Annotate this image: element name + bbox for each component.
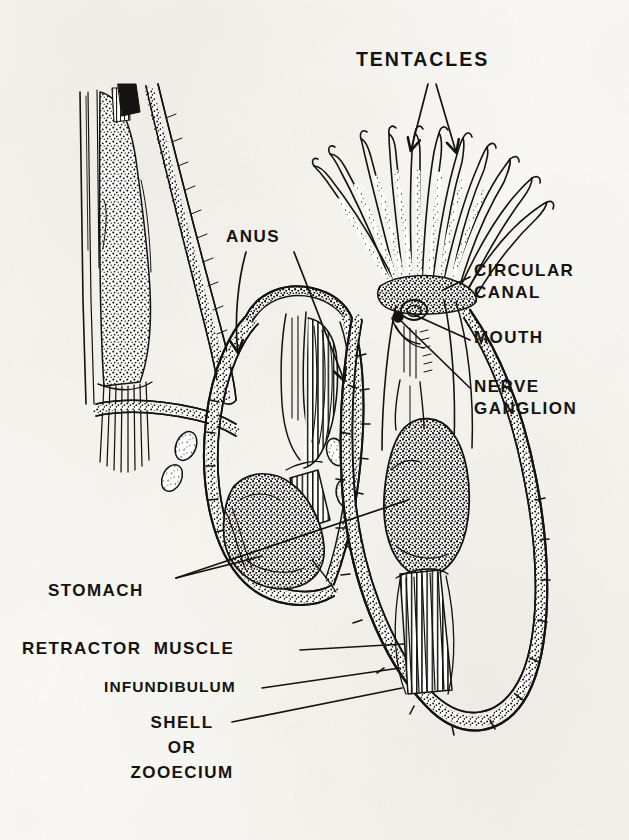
label-nerve-line1: NERVE: [474, 377, 540, 397]
label-shell-line2: OR: [122, 738, 242, 758]
label-infundibulum: INFUNDIBULUM: [104, 678, 236, 696]
label-circular-canal-line2: CANAL: [474, 283, 541, 303]
figure-plate: TENTACLES ANUS CIRCULAR CANAL MOUTH NERV…: [0, 0, 629, 840]
leader-tentacles-left: [411, 84, 428, 150]
label-mouth: MOUTH: [474, 328, 544, 348]
leader-shell: [232, 688, 402, 722]
leader-infundibulum: [262, 668, 400, 688]
label-shell-line3: ZOOECIUM: [102, 763, 262, 783]
leader-nerve-ganglion: [398, 318, 470, 388]
label-shell-line1: SHELL: [122, 713, 242, 733]
label-tentacles: TENTACLES: [356, 48, 489, 71]
leader-tentacles-right: [436, 84, 456, 152]
label-retractor-muscle: RETRACTOR MUSCLE: [22, 639, 234, 659]
label-nerve-line2: GANGLION: [474, 399, 577, 419]
label-circular-canal-line1: CIRCULAR: [474, 261, 574, 281]
expanded-zooid: [313, 126, 554, 735]
label-anus: ANUS: [226, 227, 280, 247]
label-stomach: STOMACH: [48, 581, 144, 601]
anatomy-illustration: [0, 0, 629, 840]
